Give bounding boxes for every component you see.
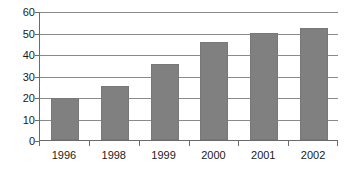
x-axis-tick-label-2000: 2000 <box>201 150 225 161</box>
x-axis-tick-mark <box>337 141 338 146</box>
x-axis-tick-mark <box>288 141 289 146</box>
gridline <box>40 77 338 78</box>
gridline <box>40 120 338 121</box>
y-axis-tick-label: 20 <box>0 93 35 104</box>
bar-2001 <box>250 33 278 141</box>
bar-2002 <box>300 28 328 140</box>
gridline <box>40 98 338 99</box>
x-axis-tick-label-1996: 1996 <box>52 150 76 161</box>
y-axis-tick-label: 0 <box>0 136 35 147</box>
bar-chart-figure: 0102030405060 199619981999200020012002 <box>0 0 350 180</box>
x-axis-tick-label-1999: 1999 <box>151 150 175 161</box>
y-axis-tick-label: 50 <box>0 28 35 39</box>
y-axis-tick-label: 10 <box>0 114 35 125</box>
gridline <box>40 34 338 35</box>
x-axis-tick-label-2002: 2002 <box>301 150 325 161</box>
bar-2000 <box>200 42 228 140</box>
x-axis-tick-label-2001: 2001 <box>251 150 275 161</box>
y-axis-tick-label: 60 <box>0 7 35 18</box>
y-axis-tick-label: 40 <box>0 50 35 61</box>
x-axis-tick-mark <box>139 141 140 146</box>
x-axis-tick-mark <box>238 141 239 146</box>
x-axis-tick-mark <box>39 141 40 146</box>
bar-1996 <box>51 98 79 140</box>
x-axis-tick-mark <box>89 141 90 146</box>
gridline <box>40 140 338 141</box>
gridline <box>40 55 338 56</box>
y-axis-tick-label: 30 <box>0 71 35 82</box>
bar-1999 <box>151 64 179 140</box>
plot-area <box>39 12 338 141</box>
bar-1998 <box>101 86 129 140</box>
x-axis-tick-mark <box>189 141 190 146</box>
gridline <box>40 12 338 13</box>
x-axis-tick-label-1998: 1998 <box>102 150 126 161</box>
